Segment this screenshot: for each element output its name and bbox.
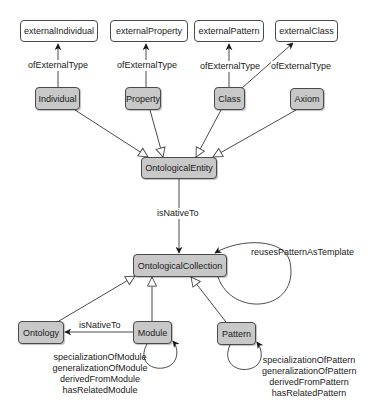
edge-pattern-self xyxy=(228,342,262,370)
node-module[interactable]: Module xyxy=(133,321,172,344)
edge-label-reusespatternastemplate: reusesPatternAsTemplate xyxy=(251,247,354,258)
module-self-relations: specializationOfModule generalizationOfM… xyxy=(52,352,148,396)
node-external-pattern[interactable]: externalPattern xyxy=(194,20,264,42)
edge-module-self xyxy=(144,341,177,368)
module-relation: generalizationOfModule xyxy=(52,363,148,374)
node-pattern[interactable]: Pattern xyxy=(217,322,256,345)
module-relation: specializationOfModule xyxy=(52,352,148,363)
node-external-individual[interactable]: externalIndividual xyxy=(20,20,98,42)
pattern-relation: hasRelatedPattern xyxy=(262,388,356,399)
edge-class-ontologicalentity xyxy=(196,110,221,157)
edge-label-ofexternaltype-3: ofExternalType xyxy=(200,61,260,72)
pattern-self-relations: specializationOfPattern generalizationOf… xyxy=(262,355,356,399)
pattern-relation: specializationOfPattern xyxy=(262,355,356,366)
edge-ontology-collection xyxy=(59,276,135,321)
node-ontological-entity[interactable]: OntologicalEntity xyxy=(141,157,217,179)
node-external-class[interactable]: externalClass xyxy=(275,20,338,42)
node-ontology[interactable]: Ontology xyxy=(18,321,64,344)
node-external-property[interactable]: externalProperty xyxy=(110,20,188,42)
edge-label-ofexternaltype-4: ofExternalType xyxy=(271,61,331,72)
edge-individual-ontologicalentity xyxy=(75,110,148,157)
pattern-relation: derivedFromPattern xyxy=(262,377,356,388)
edge-axiom-ontologicalentity xyxy=(213,110,296,157)
edge-property-ontologicalentity xyxy=(150,110,163,157)
node-property[interactable]: Property xyxy=(125,87,161,110)
module-relation: derivedFromModule xyxy=(52,374,148,385)
edge-label-isnativeto-module: isNativeTo xyxy=(79,320,121,331)
edge-label-isnativeto-entity: isNativeTo xyxy=(157,208,199,219)
node-axiom[interactable]: Axiom xyxy=(290,88,324,110)
node-ontological-collection[interactable]: OntologicalCollection xyxy=(133,254,227,277)
edge-label-ofexternaltype-1: ofExternalType xyxy=(28,60,88,71)
module-relation: hasRelatedModule xyxy=(52,385,148,396)
node-individual[interactable]: Individual xyxy=(35,87,80,110)
pattern-relation: generalizationOfPattern xyxy=(262,366,356,377)
edge-label-ofexternaltype-2: ofExternalType xyxy=(117,60,177,71)
node-class[interactable]: Class xyxy=(214,87,245,110)
